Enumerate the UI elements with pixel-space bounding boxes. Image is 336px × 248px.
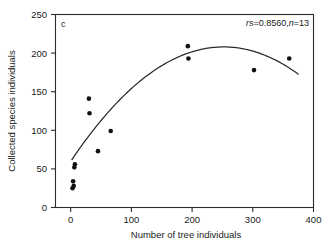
data-point	[186, 44, 191, 49]
x-axis-ticks	[71, 208, 314, 213]
data-point	[108, 129, 113, 134]
x-ticklabel-0: 0	[68, 214, 73, 225]
y-ticklabel-250: 250	[31, 9, 47, 20]
y-axis-ticks	[51, 15, 56, 208]
scatter-plot-svg: 0 50 100 150 200 250 0 100 200 300 400 N…	[0, 0, 336, 248]
data-point	[252, 68, 257, 73]
x-ticklabel-200: 200	[184, 214, 200, 225]
y-axis-tick-labels: 0 50 100 150 200 250	[31, 9, 47, 213]
data-point	[71, 179, 76, 184]
stats-rs-value: =0.8560,	[253, 18, 288, 28]
x-ticklabel-100: 100	[123, 214, 139, 225]
x-ticklabel-300: 300	[245, 214, 261, 225]
x-axis-title: Number of tree individuals	[131, 229, 242, 240]
data-point	[186, 56, 191, 61]
quadratic-fit-curve	[72, 47, 298, 160]
plot-frame	[56, 15, 314, 208]
x-axis-tick-labels: 0 100 200 300 400	[68, 214, 321, 225]
data-point	[96, 149, 101, 154]
y-axis-title: Collected species individuals	[6, 50, 17, 172]
y-ticklabel-50: 50	[36, 163, 47, 174]
y-ticklabel-100: 100	[31, 125, 47, 136]
correlation-stats-annotation: rs=0.8560,n=13	[246, 18, 309, 28]
y-ticklabel-0: 0	[42, 202, 47, 213]
data-point	[287, 56, 292, 61]
y-ticklabel-200: 200	[31, 48, 47, 59]
data-point	[87, 96, 92, 101]
panel-label: c	[61, 19, 66, 29]
chart-figure: 0 50 100 150 200 250 0 100 200 300 400 N…	[0, 0, 336, 248]
x-ticklabel-400: 400	[306, 214, 322, 225]
data-point	[71, 184, 76, 189]
y-ticklabel-150: 150	[31, 86, 47, 97]
data-point	[73, 162, 78, 167]
data-point	[87, 111, 92, 116]
stats-n-value: =13	[294, 18, 309, 28]
